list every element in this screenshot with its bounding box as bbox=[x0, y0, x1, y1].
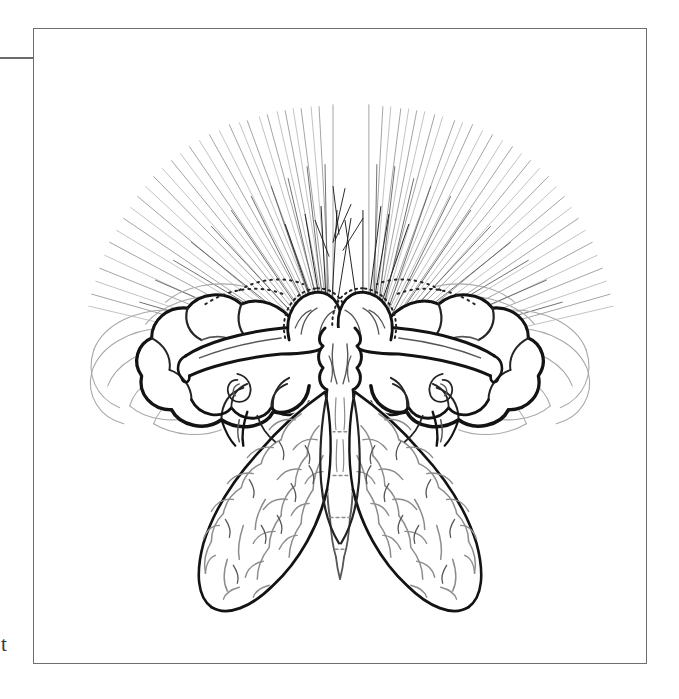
thorax bbox=[319, 328, 362, 390]
figure-frame bbox=[33, 28, 647, 664]
margin-rule bbox=[0, 57, 36, 59]
figure-illustration bbox=[34, 29, 646, 663]
document-page: t bbox=[0, 0, 679, 699]
illustration-svg bbox=[34, 29, 646, 663]
margin-text-fragment: t bbox=[1, 634, 7, 655]
